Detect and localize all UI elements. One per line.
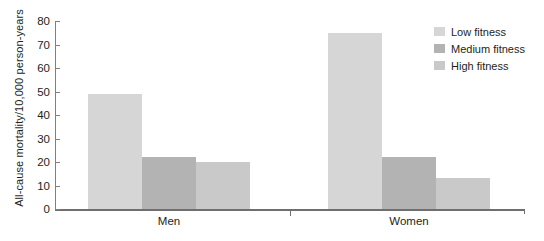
bar	[142, 157, 196, 209]
y-axis-tick-label: 60	[20, 62, 50, 74]
legend-swatch-icon	[434, 61, 445, 70]
y-axis-tick-label: 50	[20, 86, 50, 98]
y-axis-tick-label: 10	[20, 180, 50, 192]
bar	[328, 33, 382, 209]
y-axis-tick-label: 70	[20, 39, 50, 51]
bar	[382, 157, 436, 209]
x-axis-label-women: Women	[389, 215, 428, 227]
legend-item-label: High fitness	[451, 60, 508, 72]
bar	[88, 94, 142, 209]
y-axis-tick-label: 30	[20, 133, 50, 145]
bar	[436, 178, 490, 209]
group-separator-tick	[290, 210, 291, 216]
legend-item: High fitness	[434, 58, 525, 73]
x-axis-label-men: Men	[158, 215, 180, 227]
bar	[196, 162, 250, 209]
legend-item: Medium fitness	[434, 41, 525, 56]
legend-item: Low fitness	[434, 24, 525, 39]
y-axis-tick-label: 40	[20, 109, 50, 121]
x-axis-end-tick	[524, 209, 525, 214]
y-axis-tick-label: 80	[20, 15, 50, 27]
legend-swatch-icon	[434, 44, 445, 53]
legend-item-label: Medium fitness	[451, 43, 525, 55]
legend: Low fitnessMedium fitnessHigh fitness	[434, 24, 525, 75]
legend-item-label: Low fitness	[451, 26, 506, 38]
legend-swatch-icon	[434, 27, 445, 36]
y-axis-tick-label: 20	[20, 156, 50, 168]
bar-chart: All-cause mortality/10,000 person-years …	[0, 0, 544, 241]
y-axis-tick	[55, 209, 60, 210]
y-axis-tick-label: 0	[20, 203, 50, 215]
